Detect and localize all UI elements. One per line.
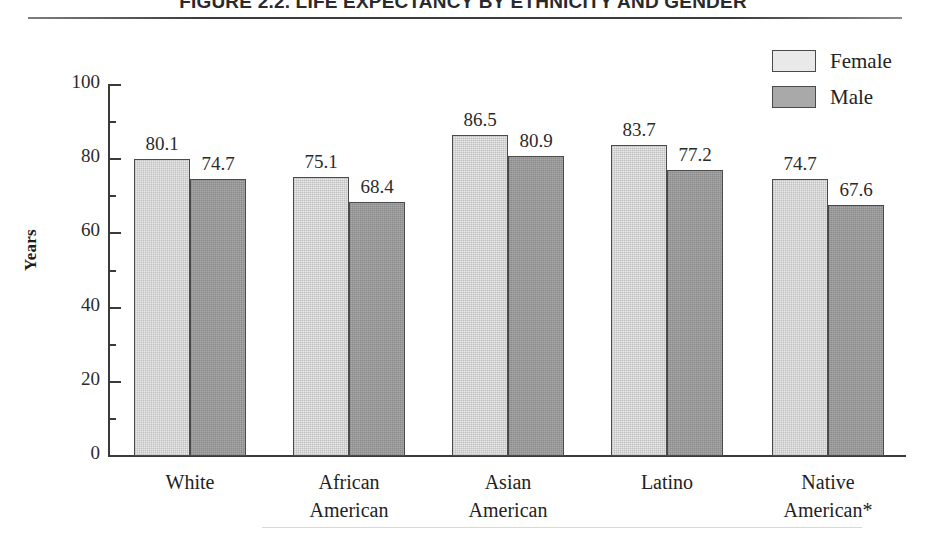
bar-female	[293, 177, 349, 456]
legend-swatch-male-icon	[772, 86, 816, 108]
category-label-line1: Latino	[641, 471, 693, 493]
legend-item-female: Female	[772, 46, 892, 76]
y-tick-label: 40	[36, 294, 100, 316]
bar-value-label-male: 80.9	[496, 130, 576, 152]
bar-value-label-female: 83.7	[599, 119, 679, 141]
bar-value-label-male: 68.4	[337, 176, 417, 198]
bar-value-label-female: 74.7	[760, 153, 840, 175]
bar-value-label-male: 77.2	[655, 144, 735, 166]
category-label-line1: African	[318, 471, 379, 493]
bar-male	[828, 205, 884, 456]
x-axis-category-label: NativeAmerican*	[738, 468, 918, 524]
y-tick-minor	[108, 418, 116, 420]
y-tick-minor	[108, 195, 116, 197]
category-label-line1: Asian	[485, 471, 532, 493]
bar-value-label-female: 86.5	[440, 109, 520, 131]
y-tick-major	[108, 84, 121, 86]
y-tick-label: 0	[36, 442, 100, 464]
x-axis-category-label: AsianAmerican	[418, 468, 598, 524]
bar-male	[667, 170, 723, 456]
bar-female	[452, 135, 508, 456]
chart-legend: Female Male	[772, 46, 892, 118]
bar-female	[134, 159, 190, 456]
category-label-line2: American	[418, 496, 598, 524]
y-tick-major	[108, 381, 121, 383]
bar-female	[772, 179, 828, 456]
y-tick-major	[108, 307, 121, 309]
y-tick-label: 20	[36, 368, 100, 390]
bar-value-label-male: 74.7	[178, 153, 258, 175]
y-tick-label: 60	[36, 219, 100, 241]
bar-value-label-male: 67.6	[816, 179, 896, 201]
y-tick-label: 100	[36, 71, 100, 93]
bar-value-label-female: 80.1	[122, 133, 202, 155]
x-axis-category-label: Latino	[577, 468, 757, 496]
y-tick-minor	[108, 270, 116, 272]
legend-item-male: Male	[772, 82, 892, 112]
y-tick-major	[108, 455, 121, 457]
y-tick-major	[108, 232, 121, 234]
y-tick-minor	[108, 121, 116, 123]
bar-female	[611, 145, 667, 456]
bar-value-label-female: 75.1	[281, 151, 361, 173]
y-tick-major	[108, 158, 121, 160]
legend-label-female: Female	[830, 49, 892, 74]
bar-male	[349, 202, 405, 456]
legend-label-male: Male	[830, 85, 873, 110]
x-axis-category-label: AfricanAmerican	[259, 468, 439, 524]
legend-swatch-female-icon	[772, 50, 816, 72]
category-label-line2: American	[259, 496, 439, 524]
bar-male	[508, 156, 564, 456]
category-label-line2: American*	[738, 496, 918, 524]
x-axis-category-label: White	[100, 468, 280, 496]
bar-male	[190, 179, 246, 456]
y-tick-minor	[108, 344, 116, 346]
bar-chart: Years 020406080100 80.174.775.168.486.58…	[0, 0, 926, 536]
category-label-line1: Native	[801, 471, 854, 493]
y-tick-label: 80	[36, 145, 100, 167]
category-label-line1: White	[166, 471, 215, 493]
